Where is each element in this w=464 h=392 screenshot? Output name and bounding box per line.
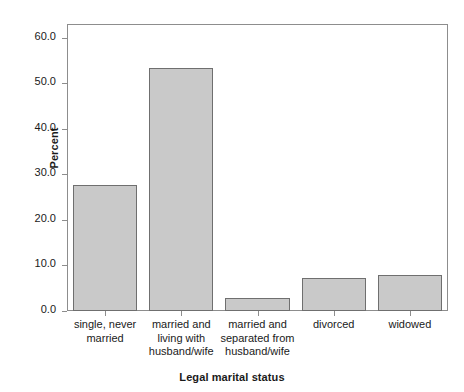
x-axis-tick-mark (105, 311, 106, 316)
y-axis-title: Percent (48, 88, 60, 208)
y-axis-tick-mark (62, 129, 67, 130)
y-axis-tick-mark (62, 220, 67, 221)
x-axis-tick-label: widowed (372, 318, 448, 332)
bar (149, 68, 213, 311)
y-axis-tick-mark (62, 38, 67, 39)
y-axis-tick-label: 30.0 (35, 166, 56, 178)
y-axis-tick-label: 10.0 (35, 257, 56, 269)
bar (225, 298, 289, 311)
y-axis-tick-label: 40.0 (35, 121, 56, 133)
y-axis-tick-label: 60.0 (35, 30, 56, 42)
y-axis-tick-label: 0.0 (41, 303, 56, 315)
y-axis-tick-mark (62, 311, 67, 312)
x-axis-tick-label: divorced (296, 318, 372, 332)
bar (73, 185, 137, 311)
y-axis-tick-mark (62, 83, 67, 84)
x-axis-tick-mark (410, 311, 411, 316)
x-axis-tick-mark (258, 311, 259, 316)
x-axis-title: Legal marital status (0, 371, 464, 383)
y-axis-tick-mark (62, 265, 67, 266)
bar (302, 278, 366, 311)
x-axis-tick-mark (181, 311, 182, 316)
x-axis-tick-label: married and separated from husband/wife (219, 318, 295, 359)
bar (378, 275, 442, 311)
y-axis-tick-label: 50.0 (35, 75, 56, 87)
x-axis-tick-mark (334, 311, 335, 316)
y-axis-tick-label: 20.0 (35, 212, 56, 224)
y-axis-tick-mark (62, 174, 67, 175)
x-axis-tick-label: married and living with husband/wife (143, 318, 219, 359)
x-axis-tick-label: single, never married (67, 318, 143, 345)
bar-chart: Percent 0.010.020.030.040.050.060.0 sing… (0, 0, 464, 392)
